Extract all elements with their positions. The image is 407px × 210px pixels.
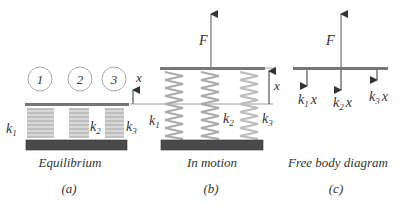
caption-equilibrium: Equilibrium: [38, 155, 102, 170]
free-body-plate: [293, 67, 388, 70]
label-b: (b): [203, 181, 218, 196]
panel-c-free-body: F k1x k2x k3x Free body diagram (c): [287, 14, 389, 196]
spring-k1-b: [165, 72, 183, 139]
label-k2-b: k2: [223, 111, 234, 128]
label-k2: k2: [90, 119, 101, 136]
spring-system-diagram: 1 2 3 k1 k2 k3 x: [0, 0, 407, 210]
spring-k1: [27, 109, 54, 137]
panel-b-in-motion: F k1 k2 k3 x In motion (b): [149, 14, 280, 196]
ground-b: [161, 140, 263, 150]
mass-1: 1: [28, 67, 52, 91]
spring-k3-b: [240, 72, 258, 139]
label-c: (c): [329, 181, 343, 196]
label-k2x: k2x: [333, 95, 353, 112]
svg-text:3: 3: [110, 72, 118, 87]
top-plate-b: [160, 67, 265, 70]
label-k1-b: k1: [149, 113, 160, 130]
spring-k2: [69, 109, 89, 137]
caption-free-body-diagram: Free body diagram: [287, 155, 388, 170]
label-k3x: k3x: [369, 89, 389, 106]
spring-k2-b: [201, 72, 219, 139]
ground: [26, 140, 127, 150]
label-a: (a): [61, 181, 76, 196]
label-k1x: k1x: [298, 92, 318, 109]
label-k3-b: k3: [262, 111, 273, 128]
label-x-b: x: [273, 78, 280, 93]
top-plate: [25, 103, 129, 106]
label-F-b: F: [198, 33, 208, 48]
mass-2: 2: [68, 67, 92, 91]
label-k1: k1: [6, 121, 17, 138]
caption-in-motion: In motion: [186, 155, 237, 170]
label-k3: k3: [126, 119, 137, 136]
svg-text:2: 2: [77, 72, 84, 87]
label-x-a: x: [135, 70, 142, 85]
spring-k3: [105, 109, 124, 137]
label-F-c: F: [325, 33, 335, 48]
panel-a-equilibrium: 1 2 3 k1 k2 k3 x: [6, 67, 142, 196]
svg-text:1: 1: [37, 72, 44, 87]
mass-3: 3: [102, 67, 126, 91]
